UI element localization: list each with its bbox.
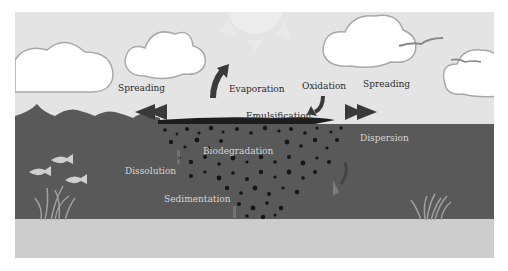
label-oxidation: Oxidation: [302, 82, 346, 91]
cloud-icon: [444, 50, 495, 97]
diagram-artwork: [15, 12, 494, 258]
label-dissolution: Dissolution: [125, 167, 176, 176]
label-spreading-left: Spreading: [118, 84, 165, 93]
arrow-icon: [177, 150, 346, 218]
label-emulsification: Emulsification: [246, 112, 311, 121]
sun-icon: [220, 12, 291, 52]
label-evaporation: Evaporation: [229, 85, 285, 94]
label-dispersion: Dispersion: [360, 134, 409, 143]
fish-icon: [29, 154, 87, 184]
cloud-icon: [323, 15, 416, 67]
arrow-icon: [213, 64, 229, 98]
seagrass-icon: [35, 186, 75, 220]
label-spreading-right: Spreading: [363, 80, 410, 89]
cloud-icon: [15, 42, 113, 92]
cloud-icon: [125, 32, 205, 79]
arrow-icon: [345, 104, 377, 120]
label-sedimentation: Sedimentation: [164, 195, 230, 204]
oil-droplets-icon: [163, 126, 343, 219]
oil-weathering-diagram: Spreading Evaporation Oxidation Spreadin…: [15, 12, 494, 258]
seagrass-icon: [411, 194, 451, 220]
surface-waves: [15, 104, 160, 126]
label-biodegradation: Biodegradation: [203, 147, 273, 156]
